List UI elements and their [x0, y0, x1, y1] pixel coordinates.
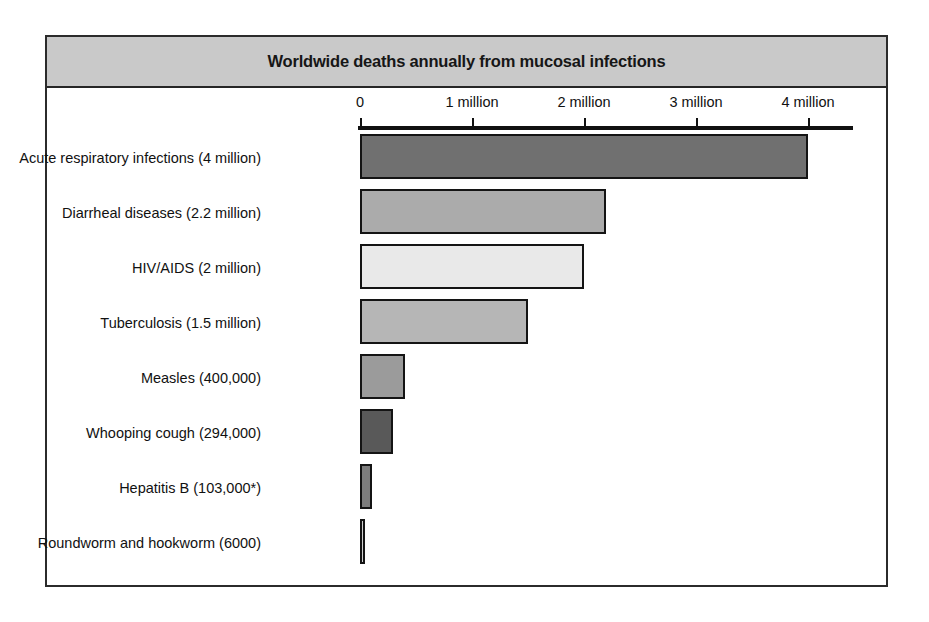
x-axis-tick-mark — [808, 118, 810, 127]
plot-area: 01 million2 million3 million4 million Ac… — [47, 88, 886, 585]
bar-category-label: Whooping cough (294,000) — [86, 425, 261, 441]
bar-category-label: Hepatitis B (103,000*) — [119, 480, 261, 496]
bar-category-label: Roundworm and hookworm (6000) — [38, 535, 261, 551]
x-axis-tick-mark — [696, 118, 698, 127]
bar — [360, 354, 405, 399]
bar-row: Acute respiratory infections (4 million) — [47, 130, 886, 185]
x-axis-tick-label: 1 million — [445, 94, 498, 110]
x-axis-tick-label: 4 million — [781, 94, 834, 110]
bar-row: Diarrheal diseases (2.2 million) — [47, 185, 886, 240]
bar-category-label: Acute respiratory infections (4 million) — [19, 150, 261, 166]
bar-category-label: HIV/AIDS (2 million) — [132, 260, 261, 276]
bar-row: Whooping cough (294,000) — [47, 405, 886, 460]
bar-row: HIV/AIDS (2 million) — [47, 240, 886, 295]
x-axis-tick-label: 2 million — [557, 94, 610, 110]
page-title: Worldwide deaths annually from mucosal i… — [268, 52, 666, 71]
bar-row: Hepatitis B (103,000*) — [47, 460, 886, 515]
x-axis-tick-mark — [472, 118, 474, 127]
bar-category-label: Tuberculosis (1.5 million) — [100, 315, 261, 331]
bar-category-label: Measles (400,000) — [141, 370, 261, 386]
bar-category-label: Diarrheal diseases (2.2 million) — [62, 205, 261, 221]
bar-row: Roundworm and hookworm (6000) — [47, 515, 886, 570]
x-axis-tick-mark — [360, 118, 362, 127]
chart-title-bar: Worldwide deaths annually from mucosal i… — [47, 37, 886, 88]
bar — [360, 409, 393, 454]
chart-figure: Worldwide deaths annually from mucosal i… — [45, 35, 888, 587]
bar-row: Measles (400,000) — [47, 350, 886, 405]
x-axis-tick-label: 0 — [356, 94, 364, 110]
bar — [360, 299, 528, 344]
x-axis-tick-label: 3 million — [669, 94, 722, 110]
bar — [360, 244, 584, 289]
x-axis-tick-mark — [584, 118, 586, 127]
bar-series: Acute respiratory infections (4 million)… — [47, 130, 886, 585]
bar — [360, 189, 606, 234]
bar — [360, 134, 808, 179]
bar-row: Tuberculosis (1.5 million) — [47, 295, 886, 350]
x-axis-tick-labels: 01 million2 million3 million4 million — [47, 94, 886, 116]
bar — [360, 519, 365, 564]
bar — [360, 464, 372, 509]
